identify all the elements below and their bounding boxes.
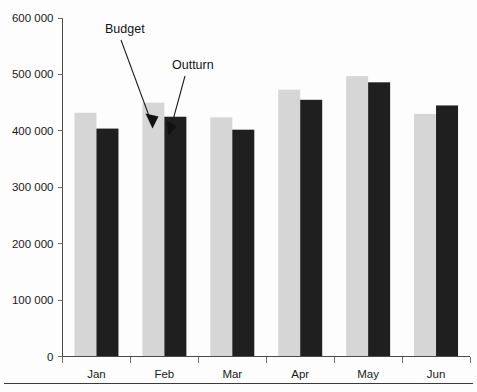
x-tick-label-4: May <box>357 368 379 380</box>
bar-outturn-feb <box>164 117 186 357</box>
x-tick-label-5: Jun <box>427 368 446 380</box>
annotation-budget-label: Budget <box>105 22 145 36</box>
x-tick-label-2: Mar <box>222 368 242 380</box>
bar-budget-mar <box>210 117 232 356</box>
bar-budget-feb <box>142 103 164 357</box>
bar-outturn-jun <box>436 105 458 356</box>
bar-budget-jan <box>74 113 96 357</box>
bar-outturn-jan <box>96 129 118 357</box>
bar-budget-apr <box>278 90 300 357</box>
y-tick-label-2: 200 000 <box>12 238 54 250</box>
x-tick-label-3: Apr <box>291 368 309 380</box>
bar-outturn-may <box>368 82 390 356</box>
bar-chart-figure: 0100 000200 000300 000400 000500 000600 … <box>0 0 477 392</box>
y-tick-label-0: 0 <box>47 351 53 363</box>
bar-outturn-mar <box>232 130 254 357</box>
chart-canvas: 0100 000200 000300 000400 000500 000600 … <box>0 0 477 392</box>
y-tick-label-1: 100 000 <box>12 294 54 306</box>
y-tick-label-5: 500 000 <box>12 68 54 80</box>
y-tick-label-4: 400 000 <box>12 125 54 137</box>
bar-budget-jun <box>414 114 436 357</box>
bar-outturn-apr <box>300 100 322 357</box>
x-tick-label-0: Jan <box>87 368 106 380</box>
annotation-outturn-label: Outturn <box>172 58 214 72</box>
y-tick-label-6: 600 000 <box>12 12 54 24</box>
bar-budget-may <box>346 76 368 356</box>
y-tick-label-3: 300 000 <box>12 181 54 193</box>
x-tick-label-1: Feb <box>154 368 174 380</box>
